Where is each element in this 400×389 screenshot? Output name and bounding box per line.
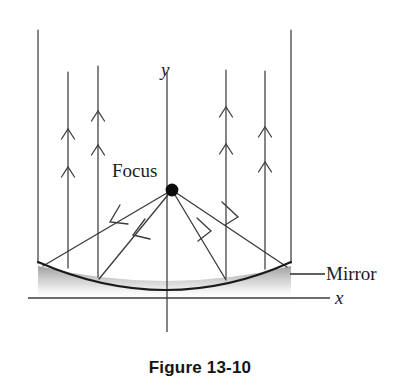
x-axis-label: x <box>335 288 343 308</box>
optics-diagram <box>0 0 400 389</box>
ray-arrowhead-icon <box>197 218 211 241</box>
mirror-label: Mirror <box>326 264 377 284</box>
reflected-ray-right-inner <box>172 190 226 280</box>
y-axis-label: y <box>161 60 169 80</box>
ray-arrowhead-icon <box>133 219 150 239</box>
incoming-ray-4 <box>220 70 233 278</box>
reflected-ray-group <box>43 190 287 280</box>
reflected-ray-left-outer <box>43 190 172 266</box>
incoming-ray-5 <box>259 71 272 269</box>
reflected-ray-right-outer <box>172 190 287 267</box>
figure-container: Focus Mirror y x Figure 13-10 <box>0 0 400 389</box>
focus-label: Focus <box>112 161 157 181</box>
incoming-ray-2 <box>62 72 75 268</box>
reflected-ray-left-inner <box>99 190 172 279</box>
mirror-shadow <box>38 266 291 300</box>
focus-point <box>166 184 179 197</box>
incoming-ray-3 <box>92 66 105 277</box>
ray-arrowhead-icon <box>222 202 238 225</box>
figure-caption: Figure 13-10 <box>0 358 400 378</box>
